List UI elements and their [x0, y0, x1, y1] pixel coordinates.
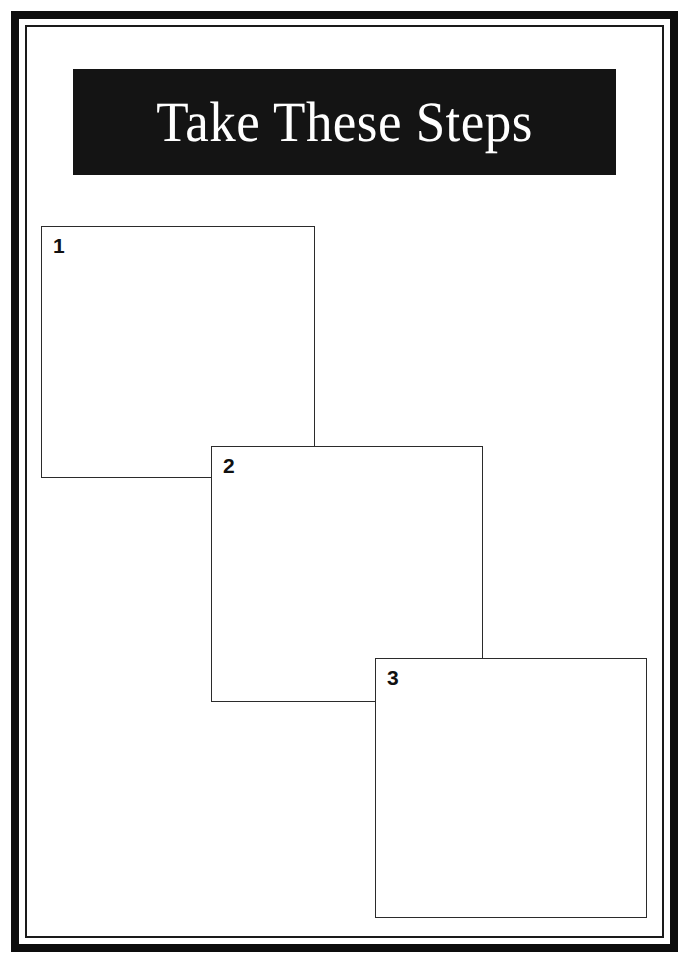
- step-box-1[interactable]: 1: [41, 226, 315, 478]
- step-number-3: 3: [387, 667, 399, 688]
- step-number-1: 1: [53, 235, 65, 256]
- step-number-2: 2: [223, 455, 235, 476]
- title-banner: Take These Steps: [73, 69, 616, 175]
- step-box-3[interactable]: 3: [375, 658, 647, 918]
- page-title: Take These Steps: [156, 94, 533, 151]
- worksheet-page: Take These Steps 1 2 3: [0, 0, 689, 963]
